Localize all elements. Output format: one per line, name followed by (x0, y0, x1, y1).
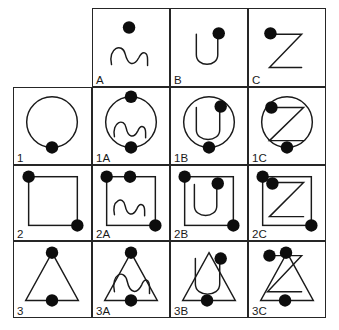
cell-label-2b: 2B (174, 228, 188, 240)
glyph-art-a (93, 9, 169, 86)
cell-label-1b: 1B (174, 152, 188, 164)
grid-cell-header-a[interactable]: A (92, 8, 170, 87)
grid-cell-row-3[interactable]: 3 (13, 241, 92, 318)
grid-cell-2a[interactable]: 2A (92, 165, 170, 241)
cell-label-3c: 3C (252, 305, 267, 317)
glyph-art-b (171, 9, 247, 86)
grid-cell-2c[interactable]: 2C (248, 165, 326, 241)
cell-label-1a: 1A (96, 152, 110, 164)
grid-cell-header-c[interactable]: C (248, 8, 326, 87)
grid-cell-3a[interactable]: 3A (92, 241, 170, 318)
cell-label-3a: 3A (96, 305, 110, 317)
grid-cell-3c[interactable]: 3C (248, 241, 326, 318)
grid-cell-row-1[interactable]: 1 (13, 87, 92, 165)
cell-label-1c: 1C (252, 152, 267, 164)
cell-label-a: A (96, 74, 104, 86)
grid-cell-1a[interactable]: 1A (92, 87, 170, 165)
cell-label-c: C (252, 74, 261, 86)
cell-label-row-3: 3 (17, 305, 24, 317)
grid-cell-1b[interactable]: 1B (170, 87, 248, 165)
grid-cell-empty-corner (13, 8, 92, 87)
shape-combination-matrix-figure: A B C 1 (0, 0, 339, 330)
cell-label-row-1: 1 (17, 152, 24, 164)
grid-cell-3b[interactable]: 3B (170, 241, 248, 318)
cell-label-3b: 3B (174, 305, 188, 317)
grid-cell-2b[interactable]: 2B (170, 165, 248, 241)
shape-art-triangle (14, 242, 91, 317)
cell-label-row-2: 2 (17, 228, 24, 240)
matrix-grid: A B C 1 (13, 8, 326, 318)
grid-cell-1c[interactable]: 1C (248, 87, 326, 165)
shape-art-square (14, 166, 91, 240)
shape-art-circle (14, 88, 91, 164)
grid-cell-header-b[interactable]: B (170, 8, 248, 87)
cell-label-2c: 2C (252, 228, 267, 240)
grid-cell-row-2[interactable]: 2 (13, 165, 92, 241)
cell-label-2a: 2A (96, 228, 110, 240)
cell-label-b: B (174, 74, 182, 86)
